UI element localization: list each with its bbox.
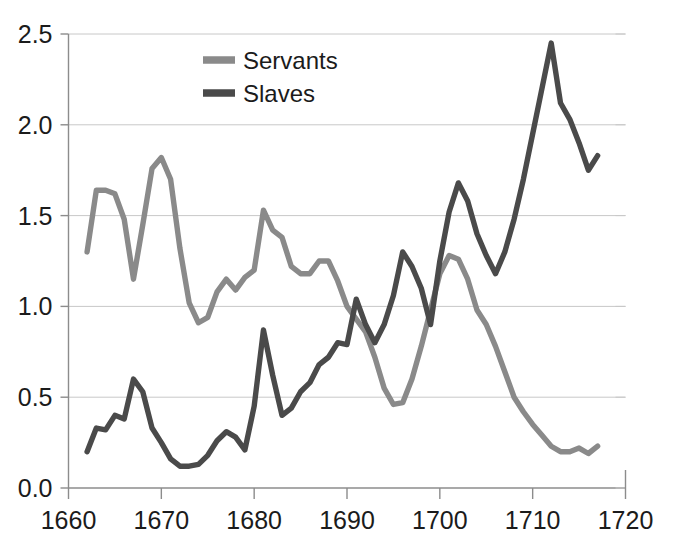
y-axis-tick-label: 0.5 xyxy=(18,383,53,411)
x-axis-tick-label: 1710 xyxy=(505,506,561,534)
y-axis-tick-label: 1.5 xyxy=(18,202,53,230)
y-axis-labels: 0.00.51.01.52.02.5 xyxy=(18,20,53,502)
line-chart: 0.00.51.01.52.02.5 166016701680169017001… xyxy=(0,0,673,553)
x-axis-tick-label: 1670 xyxy=(134,506,190,534)
chart-legend: ServantsSlaves xyxy=(203,47,338,107)
legend-label-slaves: Slaves xyxy=(243,80,315,107)
x-tickmarks-group xyxy=(69,488,626,499)
x-axis-tick-label: 1680 xyxy=(226,506,282,534)
x-axis-tick-label: 1690 xyxy=(319,506,375,534)
x-axis-tick-label: 1720 xyxy=(598,506,654,534)
x-axis-tick-label: 1700 xyxy=(412,506,468,534)
x-axis-tick-label: 1660 xyxy=(41,506,97,534)
x-axis-labels: 1660167016801690170017101720 xyxy=(41,506,654,534)
y-axis-tick-label: 1.0 xyxy=(18,292,53,320)
series-line-servants xyxy=(87,157,598,453)
series-line-slaves xyxy=(87,43,598,466)
y-axis-tick-label: 2.5 xyxy=(18,20,53,48)
chart-page: 0.00.51.01.52.02.5 166016701680169017001… xyxy=(0,0,673,553)
y-tickmarks-group xyxy=(61,34,69,488)
legend-label-servants: Servants xyxy=(243,47,338,74)
y-axis-tick-label: 0.0 xyxy=(18,474,53,502)
series-group xyxy=(87,43,598,466)
y-axis-tick-label: 2.0 xyxy=(18,111,53,139)
